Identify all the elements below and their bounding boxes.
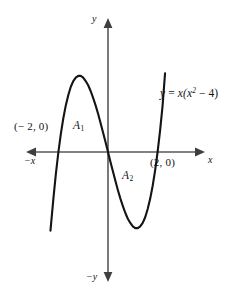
equation-lhs: y xyxy=(160,87,165,99)
y-axis-negative-label: −y xyxy=(86,272,97,282)
y-axis-positive-label: y xyxy=(92,14,96,24)
area-label-a1-subscript: 1 xyxy=(80,124,84,133)
equation-rhs-pre: x(x xyxy=(178,87,192,99)
figure-container: y −y −x x (− 2, 0) (2, 0) A1 A2 y = x(x2… xyxy=(0,0,242,298)
area-label-a1-letter: A xyxy=(73,119,80,131)
x-axis-right-arrowhead xyxy=(195,148,205,157)
y-axis-bottom-arrowhead xyxy=(104,272,113,282)
equation-label: y = x(x2 − 4) xyxy=(160,88,218,100)
equation-equals: = xyxy=(168,87,175,99)
point-label-left-root: (− 2, 0) xyxy=(14,121,48,132)
x-axis-negative-label: −x xyxy=(24,156,35,166)
area-label-a2-letter: A xyxy=(122,169,129,181)
point-label-right-root: (2, 0) xyxy=(150,157,175,168)
area-label-a2-subscript: 2 xyxy=(129,174,133,183)
y-axis-top-arrowhead xyxy=(104,18,113,28)
x-axis-positive-label: x xyxy=(208,155,212,165)
equation-rhs-post: − 4) xyxy=(196,87,218,99)
cubic-graph-svg xyxy=(0,0,242,298)
area-label-a1: A1 xyxy=(73,120,84,132)
equation-exponent: 2 xyxy=(192,86,196,95)
x-axis-group xyxy=(26,148,205,157)
area-label-a2: A2 xyxy=(122,170,133,182)
